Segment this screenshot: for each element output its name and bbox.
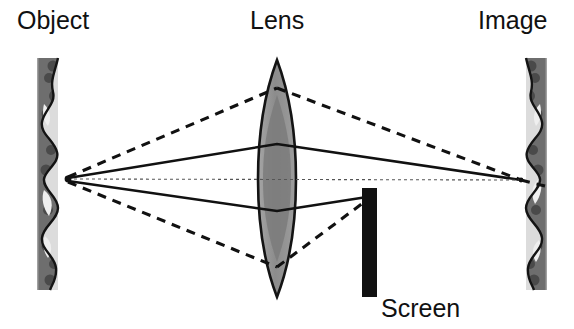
image-label: Image: [478, 8, 547, 33]
screen-label: Screen: [381, 296, 460, 321]
dashed-ray-upper-incident: [68, 88, 277, 177]
source-point: [65, 176, 72, 183]
object-label: Object: [17, 8, 89, 33]
dashed-ray-bundle: [68, 88, 545, 267]
lens-label: Lens: [250, 8, 304, 33]
image-point: [519, 178, 524, 183]
solid-ray-lower: [68, 181, 367, 211]
object-plane: [36, 56, 61, 292]
screen-bar: [362, 188, 377, 297]
diagram-canvas: [0, 0, 574, 329]
dashed-ray-upper-refracted: [277, 88, 521, 180]
image-plane: [523, 56, 548, 292]
optics-diagram: Object Lens Image Screen: [0, 0, 574, 329]
